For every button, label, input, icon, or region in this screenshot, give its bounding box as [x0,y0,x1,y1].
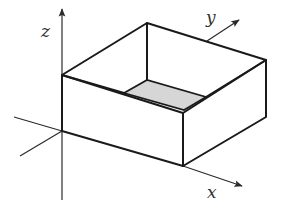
x-axis-label: x [207,182,217,202]
x-axis-negative [14,117,62,131]
y-axis-negative [20,131,62,156]
box-right-face [183,60,266,166]
z-axis-label: z [40,21,51,41]
box-diagram: z y x [0,0,288,206]
box-inner-right-floor-edge [206,60,266,97]
y-axis-label: y [205,7,216,27]
